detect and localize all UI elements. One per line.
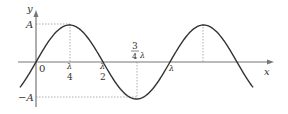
tick-half-num: λ: [99, 62, 105, 71]
axes: [18, 14, 270, 107]
tick-lambda: λ: [168, 64, 174, 73]
tick-quarter-den: 4: [67, 72, 73, 82]
origin-label: 0: [39, 63, 45, 74]
tick-three-quarter-sym: λ: [139, 51, 145, 60]
x-axis-arrow-icon: [267, 60, 274, 65]
x-axis-label: x: [264, 66, 270, 77]
tick-half-den: 2: [100, 72, 106, 82]
y-axis-label: y: [26, 3, 33, 14]
amplitude-negative-label: −A: [18, 92, 34, 103]
amplitude-positive-label: A: [25, 19, 33, 30]
wave-diagram: y x A −A 0 λ 4 λ 2 3 4 λ λ: [0, 0, 288, 114]
tick-three-quarter-coef-num: 3: [132, 41, 138, 51]
y-axis-arrow-icon: [34, 10, 39, 17]
guide-lines: [36, 24, 203, 97]
tick-three-quarter-coef-den: 4: [132, 52, 137, 61]
tick-quarter-num: λ: [66, 62, 72, 71]
